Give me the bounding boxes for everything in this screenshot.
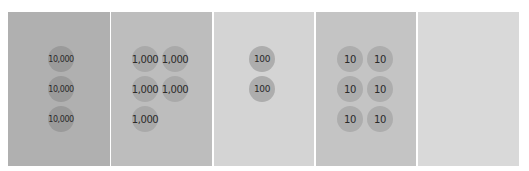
place-value-chip: 10,000	[48, 46, 74, 72]
place-value-chip: 10,000	[48, 106, 74, 132]
place-value-chip: 1,000	[162, 76, 188, 102]
place-value-chip: 1,000	[132, 106, 158, 132]
place-value-chip: 1,000	[132, 76, 158, 102]
tens-column	[316, 12, 416, 166]
place-value-chip: 10	[337, 46, 363, 72]
place-value-chip: 100	[249, 46, 275, 72]
place-value-chip: 10	[337, 76, 363, 102]
ones-column	[418, 12, 519, 166]
place-value-chip: 1,000	[132, 46, 158, 72]
place-value-chip: 10	[337, 106, 363, 132]
place-value-chip: 10	[367, 106, 393, 132]
place-value-chip: 10	[367, 46, 393, 72]
place-value-chip: 10	[367, 76, 393, 102]
place-value-chip: 1,000	[162, 46, 188, 72]
place-value-chip: 100	[249, 76, 275, 102]
place-value-chip: 10,000	[48, 76, 74, 102]
